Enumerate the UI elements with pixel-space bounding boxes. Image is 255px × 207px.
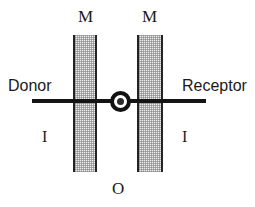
ring-icon — [110, 91, 131, 112]
membrane-bar-left — [73, 35, 97, 172]
dot-icon — [117, 98, 124, 105]
donor-label: Donor — [8, 78, 52, 94]
membrane-bar-right — [137, 35, 163, 172]
interface-right-label: I — [182, 129, 187, 145]
outer-phase-label: O — [112, 180, 124, 197]
receptor-label: Receptor — [182, 78, 247, 94]
interface-left-label: I — [42, 129, 47, 145]
membrane-right-label: M — [142, 8, 157, 25]
membrane-left-label: M — [78, 8, 93, 25]
membrane-transport-diagram: M M Donor Receptor I I O — [0, 0, 255, 207]
